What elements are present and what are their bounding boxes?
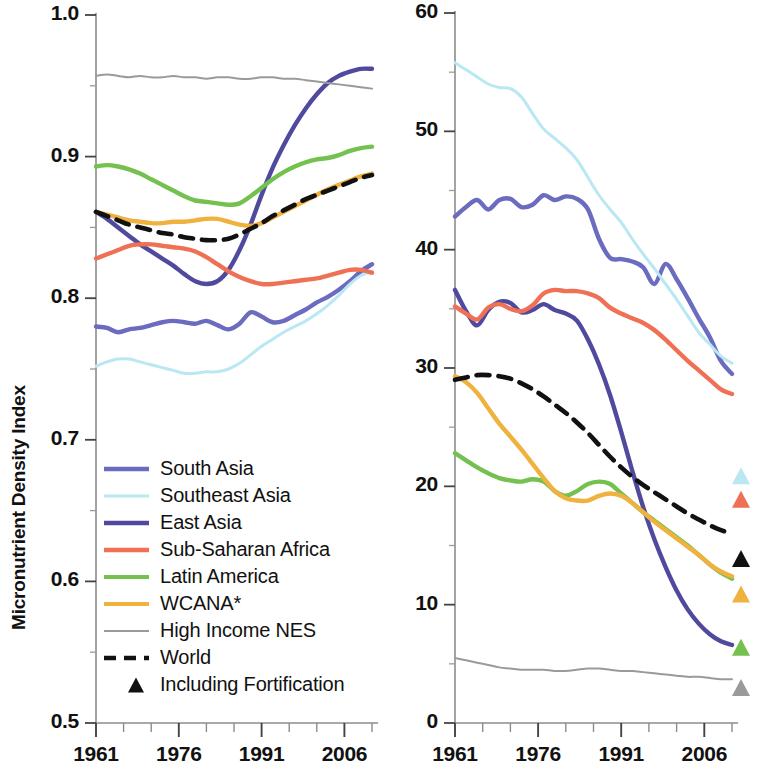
series-line <box>96 175 372 240</box>
series-line <box>455 658 732 679</box>
x-tick-label: 2006 <box>677 742 731 766</box>
legend: South AsiaSoutheast AsiaEast AsiaSub-Sah… <box>103 455 393 698</box>
series-line <box>455 453 732 578</box>
line-swatch-icon <box>103 594 150 614</box>
legend-item-label: Including Fortification <box>160 673 344 696</box>
legend-item: Sub-Saharan Africa <box>103 536 393 563</box>
legend-item: High Income NES <box>103 617 393 644</box>
legend-item: Latin America <box>103 563 393 590</box>
legend-item: Southeast Asia <box>103 482 393 509</box>
series-line <box>96 147 372 205</box>
series-line <box>96 271 372 373</box>
fortification-triangle-marker <box>732 491 750 508</box>
x-tick-label: 1961 <box>69 742 123 766</box>
x-tick-label: 1961 <box>428 742 482 766</box>
y-tick-label: 0.6 <box>17 567 79 591</box>
legend-item: World <box>103 644 393 671</box>
panel-prevalence-inadequate-intake: Prevalence of Inadequate Micronutrient I… <box>392 0 763 769</box>
line-swatch-icon <box>103 486 150 506</box>
series-line <box>455 63 732 364</box>
fortification-triangle-marker <box>732 679 750 696</box>
y-tick-label: 40 <box>376 236 438 260</box>
y-tick-label: 0.8 <box>17 284 79 308</box>
legend-item-label: East Asia <box>160 511 242 534</box>
line-swatch-icon <box>103 459 150 479</box>
series-line <box>96 174 372 226</box>
series-line <box>96 74 372 88</box>
line-swatch-icon <box>103 513 150 533</box>
x-tick-label: 1976 <box>152 742 206 766</box>
y-tick-label: 1.0 <box>17 1 79 25</box>
y-tick-label: 0.9 <box>17 143 79 167</box>
y-tick-label: 50 <box>376 117 438 141</box>
fortification-triangle-marker <box>732 586 750 603</box>
series-line <box>96 69 372 284</box>
y-tick-label: 60 <box>376 0 438 23</box>
line-swatch-icon <box>103 540 150 560</box>
legend-item-label: World <box>160 646 211 669</box>
line-swatch-icon <box>103 567 150 587</box>
series-line <box>96 264 372 332</box>
fortification-triangle-marker <box>732 467 750 484</box>
legend-item-label: High Income NES <box>160 619 316 642</box>
plot-area-right <box>392 0 763 769</box>
legend-item: WCANA* <box>103 590 393 617</box>
legend-item-label: WCANA* <box>160 592 241 615</box>
legend-item-label: Sub-Saharan Africa <box>160 538 330 561</box>
fortification-triangle-marker <box>732 550 750 567</box>
legend-item-label: Latin America <box>160 565 279 588</box>
x-tick-label: 2006 <box>317 742 371 766</box>
line-swatch-icon <box>103 621 150 641</box>
y-tick-label: 0.7 <box>17 426 79 450</box>
line-swatch-icon <box>103 648 150 668</box>
legend-item-label: Southeast Asia <box>160 484 291 507</box>
y-tick-label: 30 <box>376 354 438 378</box>
x-tick-label: 1976 <box>511 742 565 766</box>
y-axis-label-left: Micronutrient Density Index <box>8 385 30 630</box>
legend-item: East Asia <box>103 509 393 536</box>
x-tick-label: 1991 <box>235 742 289 766</box>
y-tick-label: 0.5 <box>17 709 79 733</box>
series-line <box>455 290 732 394</box>
legend-item: Including Fortification <box>103 671 393 698</box>
series-line <box>455 290 732 645</box>
x-tick-label: 1991 <box>594 742 648 766</box>
legend-item-label: South Asia <box>160 457 254 480</box>
series-line <box>96 244 372 284</box>
fortification-triangle-marker <box>732 639 750 656</box>
series-line <box>455 376 732 576</box>
figure-two-panel-chart: Micronutrient Density Index 0.50.60.70.8… <box>0 0 763 769</box>
legend-item: South Asia <box>103 455 393 482</box>
triangle-marker-icon <box>103 675 150 695</box>
series-line <box>455 375 732 534</box>
series-line <box>455 195 732 374</box>
y-tick-label: 0 <box>376 709 438 733</box>
